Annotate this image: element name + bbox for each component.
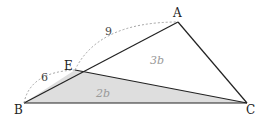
vertex-label-e: E <box>64 59 73 73</box>
length-label-eb: 6 <box>41 71 48 84</box>
side-ac <box>178 22 247 103</box>
vertex-label-b: B <box>14 103 23 117</box>
shaded-region-ebc <box>24 70 247 103</box>
length-label-ae: 9 <box>105 25 112 38</box>
vertex-label-a: A <box>172 6 182 20</box>
triangle-diagram: 6 9 A B C E 2b 3b <box>0 0 268 120</box>
area-label-ebc: 2b <box>95 87 110 100</box>
area-label-aec: 3b <box>150 54 164 67</box>
vertex-label-c: C <box>246 103 255 117</box>
